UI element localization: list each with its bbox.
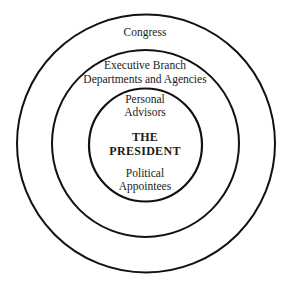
political-label: Political bbox=[0, 167, 290, 180]
the-label: THE bbox=[0, 131, 290, 144]
personal-label: Personal bbox=[0, 93, 290, 106]
appointees-label: Appointees bbox=[0, 180, 290, 193]
departments-agencies-label: Departments and Agencies bbox=[0, 73, 290, 86]
president-label: PRESIDENT bbox=[0, 145, 290, 158]
congress-label: Congress bbox=[0, 26, 290, 39]
advisors-label: Advisors bbox=[0, 106, 290, 119]
executive-branch-label: Executive Branch bbox=[0, 59, 290, 72]
